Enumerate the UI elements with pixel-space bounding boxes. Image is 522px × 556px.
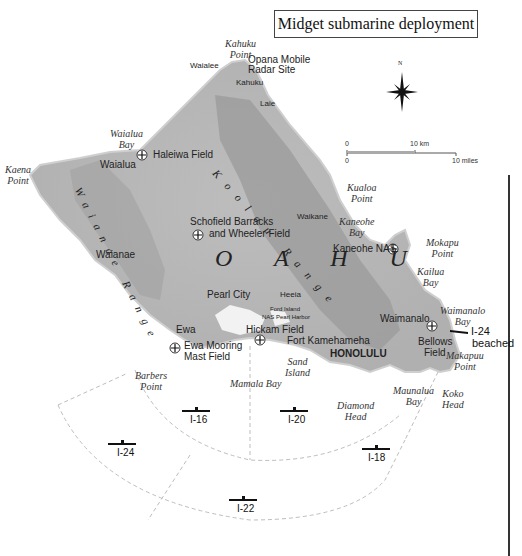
mamala-bay-label: Mamala Bay	[230, 378, 281, 389]
place-waikane: Waikane	[297, 212, 328, 222]
place-waialee: Waialee	[190, 61, 219, 71]
kailua-bay-label: KailuaBay	[417, 266, 444, 288]
place-waimanalo: Waimanalo	[380, 314, 430, 324]
place-hickam-field: Hickam Field	[246, 325, 304, 335]
scale-zero-mi: 0	[345, 157, 349, 164]
sand-island-label: SandIsland	[285, 356, 310, 378]
place-schofield-2: and Wheeler Field	[209, 229, 290, 239]
scale-bar	[347, 150, 456, 156]
map-title: Midget submarine deployment	[274, 10, 478, 38]
diamond-head-label: DiamondHead	[337, 400, 374, 422]
scale-zero-km: 0	[345, 140, 349, 147]
place-ewa-mooring-2: Mast Field	[184, 352, 230, 362]
north-label: N	[398, 58, 402, 68]
mokapu-point-label: MokapuPoint	[426, 237, 459, 259]
place-haleiwa-field: Haleiwa Field	[153, 150, 213, 160]
waialua-bay-label: WaialuaBay	[110, 128, 143, 150]
place-ewa: Ewa	[176, 325, 195, 335]
scale-miles: 10 miles	[452, 157, 478, 164]
place-honolulu: HONOLULU	[330, 349, 387, 359]
place-laie: Laie	[260, 99, 275, 109]
place-schofield: Schofield Barracks	[190, 217, 273, 227]
waimanalo-bay-label: WaimanaloBay	[440, 305, 485, 327]
submarine-i24: I-24	[117, 447, 134, 458]
submarine-i18: I-18	[368, 452, 385, 463]
place-kahuku: Kahuku	[236, 78, 263, 88]
submarine-i20: I-20	[288, 414, 305, 425]
makapuu-point-label: MakapuuPoint	[446, 350, 484, 372]
koko-head-label: KokoHead	[442, 388, 464, 410]
submarine-i16: I-16	[190, 414, 207, 425]
place-bellows-2: Field	[424, 348, 446, 358]
kahuku-point-label: KahukuPoint	[225, 38, 256, 60]
deployment-sectors	[58, 346, 438, 520]
kaneohe-bay-label: KaneoheBay	[339, 216, 375, 238]
maunalua-bay-label: MaunaluaBay	[393, 385, 434, 407]
place-kaneohe-nas: Kaneohe NAS	[333, 244, 396, 254]
kualoa-point-label: KualoaPoint	[347, 182, 376, 204]
submarine-i22: I-22	[237, 503, 254, 514]
submarine-i24-beached: I-24	[471, 325, 490, 337]
place-ewa-mooring: Ewa Mooring	[184, 341, 242, 351]
place-waianae: Waianae	[96, 250, 135, 260]
place-fort-kamehameha: Fort Kamehameha	[287, 336, 370, 346]
kaena-point-label: KaenaPoint	[5, 164, 31, 186]
scale-km: 10 km	[410, 140, 429, 147]
place-pearl-city: Pearl City	[207, 290, 250, 300]
beached-note: beached	[472, 337, 514, 349]
place-heeia: Heeia	[280, 290, 301, 300]
place-bellows: Bellows	[418, 337, 452, 347]
place-nas-pearl-harbor: NAS Pearl Harbor	[262, 312, 310, 322]
frame-edge	[508, 175, 510, 556]
place-waialua: Waialua	[100, 160, 136, 170]
place-opana-2: Radar Site	[248, 65, 295, 75]
barbers-point-label: BarbersPoint	[135, 370, 167, 392]
compass-rose-icon	[386, 72, 418, 112]
